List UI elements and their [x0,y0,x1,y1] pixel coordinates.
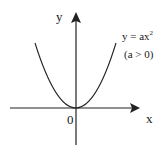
origin-label: 0 [67,113,74,126]
equation-label: y = ax2 [122,30,153,42]
y-axis-label: y [56,10,63,23]
condition-label: (a > 0) [124,49,153,60]
diagram-canvas [0,0,167,155]
equation-exponent: 2 [150,29,154,37]
equation-base: y = ax [122,30,150,42]
parabola-diagram: y x 0 y = ax2 (a > 0) [0,0,167,155]
x-axis-label: x [146,112,153,125]
